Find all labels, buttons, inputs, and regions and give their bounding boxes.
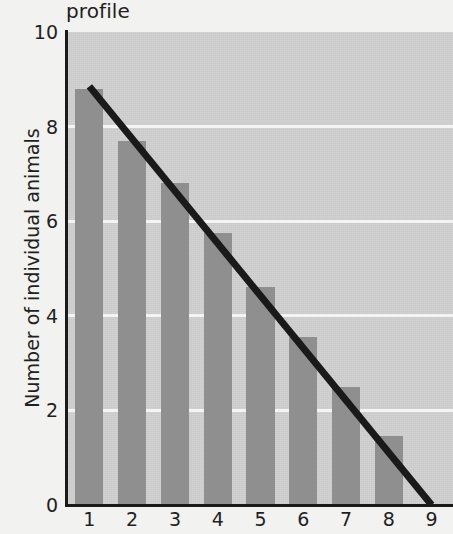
y-tick-label: 0 xyxy=(10,494,58,516)
x-tick-label: 1 xyxy=(69,508,109,530)
x-tick-label: 9 xyxy=(412,508,452,530)
y-axis-ticks: 0246810 xyxy=(0,0,453,534)
x-tick-label: 2 xyxy=(112,508,152,530)
x-tick-label: 5 xyxy=(241,508,281,530)
y-tick-label: 4 xyxy=(10,305,58,327)
x-tick-label: 7 xyxy=(326,508,366,530)
x-tick-label: 6 xyxy=(283,508,323,530)
x-tick-label: 3 xyxy=(155,508,195,530)
y-tick-label: 10 xyxy=(10,21,58,43)
x-tick-label: 8 xyxy=(369,508,409,530)
x-tick-label: 4 xyxy=(198,508,238,530)
y-tick-label: 8 xyxy=(10,115,58,137)
y-tick-label: 6 xyxy=(10,210,58,232)
chart-root: profile Number of individual animals 024… xyxy=(0,0,453,534)
y-tick-label: 2 xyxy=(10,399,58,421)
